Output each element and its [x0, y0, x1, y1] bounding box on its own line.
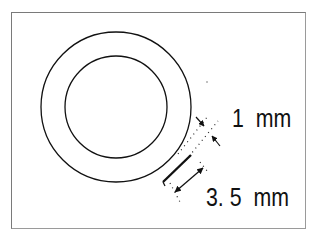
- thickness-label: 1 mm: [232, 103, 291, 134]
- inner-circle: [65, 56, 167, 158]
- outer-circle: [41, 32, 191, 182]
- arrow-1mm-left: [196, 117, 204, 126]
- gap-segment: [163, 155, 191, 182]
- gap-label: 3. 5 mm: [206, 182, 289, 213]
- stray-dot: [206, 81, 207, 82]
- arrow-3-5mm: [175, 168, 203, 192]
- arrow-1mm-right: [212, 136, 220, 146]
